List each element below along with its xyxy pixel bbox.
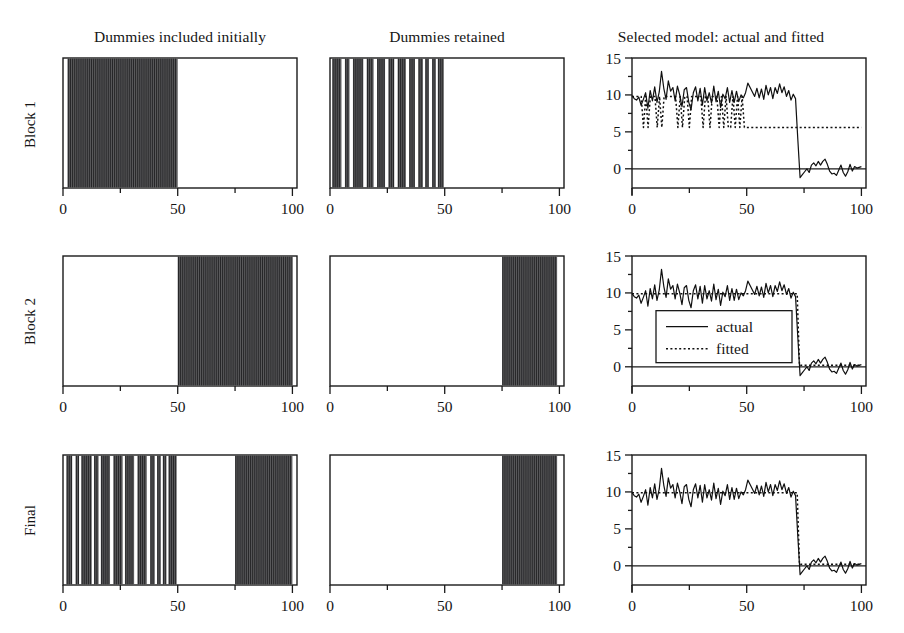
- x-tick-label: 50: [739, 200, 755, 217]
- panel-block2-dummies-included: 050100: [55, 250, 309, 418]
- x-tick-label: 0: [326, 398, 334, 415]
- panel-block1-selected-model: 051015050100: [588, 52, 878, 226]
- x-tick-label: 100: [850, 398, 874, 415]
- legend: actualfitted: [656, 311, 792, 363]
- panel-block1-dummies-included: 050100: [55, 52, 309, 220]
- plot-area: 051015050100: [588, 449, 878, 623]
- x-tick-label: 100: [850, 200, 874, 217]
- dummy-band: [377, 59, 385, 188]
- x-tick-label: 100: [548, 597, 572, 614]
- x-tick-label: 0: [59, 200, 67, 217]
- dummy-band: [125, 456, 134, 585]
- dummy-band: [502, 257, 557, 386]
- x-tick-label: 0: [326, 597, 334, 614]
- plot-area: 050100: [322, 250, 576, 418]
- dummy-band: [94, 456, 99, 585]
- dummy-band: [398, 59, 406, 188]
- x-tick-label: 100: [548, 398, 572, 415]
- dummy-band: [150, 456, 155, 585]
- x-tick-label: 100: [850, 597, 874, 614]
- dummy-band: [66, 456, 72, 585]
- y-tick-label: 10: [606, 284, 622, 301]
- dummy-band: [389, 59, 395, 188]
- dummy-band: [502, 456, 557, 585]
- legend-label-fitted: fitted: [716, 340, 749, 357]
- y-tick-label: 10: [606, 86, 622, 103]
- x-tick-label: 0: [628, 200, 636, 217]
- series-actual: [632, 468, 861, 574]
- plot-frame: [330, 58, 564, 188]
- x-tick-label: 0: [628, 597, 636, 614]
- y-tick-label: 15: [606, 52, 622, 67]
- dummy-band: [163, 456, 166, 585]
- column-title-dummies-retained: Dummies retained: [330, 28, 564, 46]
- y-tick-label: 5: [613, 123, 621, 140]
- dummy-band: [138, 456, 147, 585]
- dummy-band: [113, 456, 122, 585]
- row-label-block-1: Block 1: [22, 85, 39, 165]
- panel-final-dummies-retained: 050100: [322, 449, 576, 617]
- plot-area: 050100: [55, 52, 309, 220]
- x-tick-label: 0: [326, 200, 334, 217]
- dummy-band: [367, 59, 374, 188]
- dummy-band: [178, 257, 293, 386]
- row-label-final: Final: [22, 481, 39, 561]
- series-fitted: [632, 493, 861, 565]
- x-tick-label: 50: [437, 597, 453, 614]
- dummy-band: [169, 456, 177, 585]
- column-title-selected-model: Selected model: actual and fitted: [596, 28, 846, 46]
- plot-area: 050100: [322, 52, 576, 220]
- dummy-band: [235, 456, 292, 585]
- x-tick-label: 50: [739, 398, 755, 415]
- dummy-band: [68, 59, 178, 188]
- plot-area: 050100: [322, 449, 576, 617]
- panel-block2-dummies-retained: 050100: [322, 250, 576, 418]
- dummy-band: [76, 456, 79, 585]
- x-tick-label: 50: [739, 597, 755, 614]
- panel-block1-dummies-retained: 050100: [322, 52, 576, 220]
- panel-final-dummies-included: 050100: [55, 449, 309, 617]
- legend-label-actual: actual: [716, 318, 753, 335]
- column-title-dummies-included: Dummies included initially: [63, 28, 297, 46]
- row-label-block-2: Block 2: [22, 282, 39, 362]
- dummy-band: [81, 456, 91, 585]
- dummy-band: [409, 59, 415, 188]
- plot-area: 051015050100: [588, 52, 878, 226]
- x-tick-label: 100: [548, 200, 572, 217]
- panel-final-selected-model: 051015050100: [588, 449, 878, 623]
- series-actual: [632, 71, 861, 177]
- y-tick-label: 0: [613, 358, 621, 375]
- x-tick-label: 0: [59, 597, 67, 614]
- dummy-band: [101, 456, 110, 585]
- dummy-band: [345, 59, 350, 188]
- plot-area: 050100: [55, 449, 309, 617]
- y-tick-label: 10: [606, 483, 622, 500]
- dummy-band: [353, 59, 363, 188]
- plot-area: 050100: [55, 250, 309, 418]
- x-tick-label: 50: [437, 398, 453, 415]
- y-tick-label: 0: [613, 557, 621, 574]
- y-tick-label: 15: [606, 250, 622, 265]
- dummy-band: [438, 59, 444, 188]
- x-tick-label: 50: [437, 200, 453, 217]
- x-tick-label: 100: [281, 597, 305, 614]
- dummy-band: [418, 59, 423, 188]
- dummy-band: [425, 59, 428, 188]
- y-tick-label: 5: [613, 321, 621, 338]
- plot-area: 051015050100actualfitted: [588, 250, 878, 424]
- x-tick-label: 50: [170, 200, 186, 217]
- x-tick-label: 100: [281, 398, 305, 415]
- x-tick-label: 100: [281, 200, 305, 217]
- y-tick-label: 0: [613, 160, 621, 177]
- y-tick-label: 15: [606, 449, 622, 464]
- x-tick-label: 50: [170, 597, 186, 614]
- x-tick-label: 0: [59, 398, 67, 415]
- dummy-band: [157, 456, 160, 585]
- x-tick-label: 0: [628, 398, 636, 415]
- x-tick-label: 50: [170, 398, 186, 415]
- figure-panel-grid: Dummies included initially Dummies retai…: [0, 0, 904, 633]
- y-tick-label: 5: [613, 520, 621, 537]
- panel-block2-selected-model: 051015050100actualfitted: [588, 250, 878, 424]
- dummy-band: [332, 59, 341, 188]
- series-fitted: [632, 96, 861, 127]
